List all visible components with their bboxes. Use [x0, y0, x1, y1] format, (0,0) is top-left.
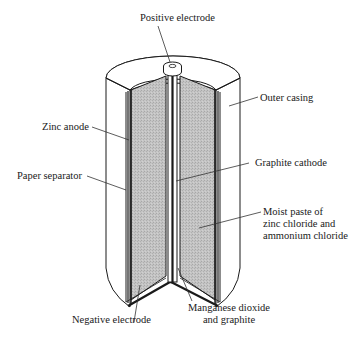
label-positive-electrode: Positive electrode [140, 12, 215, 24]
label-manganese-1: Manganese dioxide [184, 302, 274, 314]
label-paper-separator: Paper separator [17, 170, 82, 182]
label-manganese-2: and graphite [184, 314, 274, 326]
label-outer-casing: Outer casing [260, 92, 313, 104]
label-moist-paste-1: Moist paste of [263, 206, 323, 218]
label-negative-electrode: Negative electrode [72, 314, 151, 326]
label-zinc-anode: Zinc anode [42, 121, 89, 133]
label-moist-paste-3: ammonium chloride [263, 230, 348, 242]
label-moist-paste-2: zinc chloride and [263, 218, 335, 230]
label-graphite-cathode: Graphite cathode [255, 157, 327, 169]
